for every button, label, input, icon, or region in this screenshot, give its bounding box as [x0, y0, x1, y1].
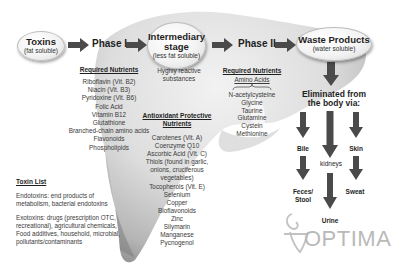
antioxidant-item: Copper [136, 199, 218, 207]
elimination-heading: Eliminated from the body via: [294, 90, 374, 108]
arrow-down-icon [296, 112, 310, 138]
amino-acid-item: Taurine [218, 107, 286, 115]
intermediary-stage-node: Intermediary stage (less fat soluble) [147, 22, 206, 69]
antioxidant-nutrients: Antioxidant Protective Nutrients Caroten… [136, 112, 218, 247]
nutrient-item: Folic Acid [62, 103, 156, 111]
antioxidant-item: Silymarin [136, 223, 218, 231]
arrow-down-icon [323, 62, 339, 86]
endotoxins-1: Endotoxins: end products of [16, 192, 146, 200]
elimination-heading-2: the body via: [294, 99, 374, 108]
optima-logo-text: OPTIMA [304, 226, 391, 252]
phase-1-label: Phase I [92, 38, 127, 49]
arrow-down-icon [322, 111, 338, 158]
phase-2-nutrients-heading: Required Nutrients [218, 66, 286, 75]
intermediary-title-1: Intermediary [148, 32, 205, 42]
arrow-right-icon [126, 38, 147, 52]
amino-acid-item: Cystein [218, 122, 286, 130]
exotoxins-2: recreational), agricultural chemicals, [16, 222, 146, 230]
route-skin: Skin [345, 145, 367, 153]
route-kidneys: kidneys [314, 160, 348, 168]
arrow-down-icon [349, 112, 363, 138]
amino-acid-item: Glycine [218, 99, 286, 107]
phase-2-label: Phase II [238, 38, 276, 49]
brace-icon [232, 84, 272, 91]
toxins-node: Toxins (fat soluble) [17, 31, 65, 61]
nutrient-item: Pyridoxine (Vit. B6) [62, 94, 156, 102]
route-sweat: Sweat [341, 188, 369, 196]
arrow-right-icon [275, 38, 296, 52]
toxins-subtitle: (fat soluble) [24, 47, 58, 55]
antioxidant-item: onions, cruciferous [136, 166, 218, 174]
antioxidant-item: Zinc [136, 215, 218, 223]
antioxidant-item: Carotenes (Vit. A) [136, 134, 218, 142]
phase-1-nutrients-heading: Required Nutrients [62, 66, 156, 73]
amino-acid-item: Methionine [218, 130, 286, 138]
arrow-down-icon [323, 173, 337, 209]
waste-products-node: Waste Products (water soluble) [296, 27, 372, 61]
reactive-substances-note: Hyghly reactive substances [148, 67, 210, 83]
route-feces: Feces/ Stool [288, 188, 318, 204]
exotoxins-3: Food additives, household, microbial, [16, 230, 146, 238]
antioxidant-item: vegetables) [136, 174, 218, 182]
antioxidant-item: Pycnogenol [136, 239, 218, 247]
amino-acid-item: Glutamine [218, 114, 286, 122]
antioxidant-item: Manganese [136, 231, 218, 239]
phase-2-nutrients: Required Nutrients Amino Acids N-acetylc… [218, 66, 286, 138]
amino-acids-subheading: Amino Acids [218, 75, 286, 84]
arrow-right-icon [68, 38, 89, 52]
antioxidant-heading-2: Nutrients [136, 120, 218, 128]
antioxidant-heading-1: Antioxidant Protective [136, 112, 218, 120]
waste-subtitle: (water soluble) [313, 45, 356, 53]
toxin-list-heading: Toxin List [16, 178, 146, 186]
route-feces-2: Stool [288, 196, 318, 204]
exotoxins-4: pollutants/contaminants [16, 238, 146, 246]
reactive-line-2: substances [148, 75, 210, 83]
intermediary-title-2: stage [164, 42, 189, 52]
toxins-title: Toxins [26, 37, 56, 47]
antioxidant-item: Thiols (found in garlic, [136, 158, 218, 166]
route-bile: Bile [293, 145, 313, 153]
route-urine: Urine [316, 217, 344, 225]
amino-acid-item: N-acetylcysteine [218, 91, 286, 99]
waste-title: Waste Products [298, 35, 369, 45]
exotoxins-1: Exotoxins: drugs (prescription OTC, [16, 214, 146, 222]
nutrient-item: Niacin (Vit. B3) [62, 86, 156, 94]
endotoxins-2: metabolism, bacterial endotoxins [16, 200, 146, 208]
antioxidant-item: Coenzyme Q10 [136, 142, 218, 150]
antioxidant-item: Ascorbic Acid (Vit. C) [136, 150, 218, 158]
antioxidant-item: Tocopherols (Vit. E) [136, 183, 218, 191]
arrow-down-icon [349, 156, 363, 180]
antioxidant-item: Selenium [136, 191, 218, 199]
arrow-down-icon [296, 156, 310, 180]
intermediary-subtitle: (less fat soluble) [153, 52, 200, 60]
arrow-right-icon [212, 38, 233, 52]
route-feces-1: Feces/ [288, 188, 318, 196]
antioxidant-item: Bioflavonoids [136, 207, 218, 215]
nutrient-item: Riboflavin (Vit. B2) [62, 78, 156, 86]
toxin-list: Toxin List Endotoxins: end products of m… [16, 178, 146, 246]
